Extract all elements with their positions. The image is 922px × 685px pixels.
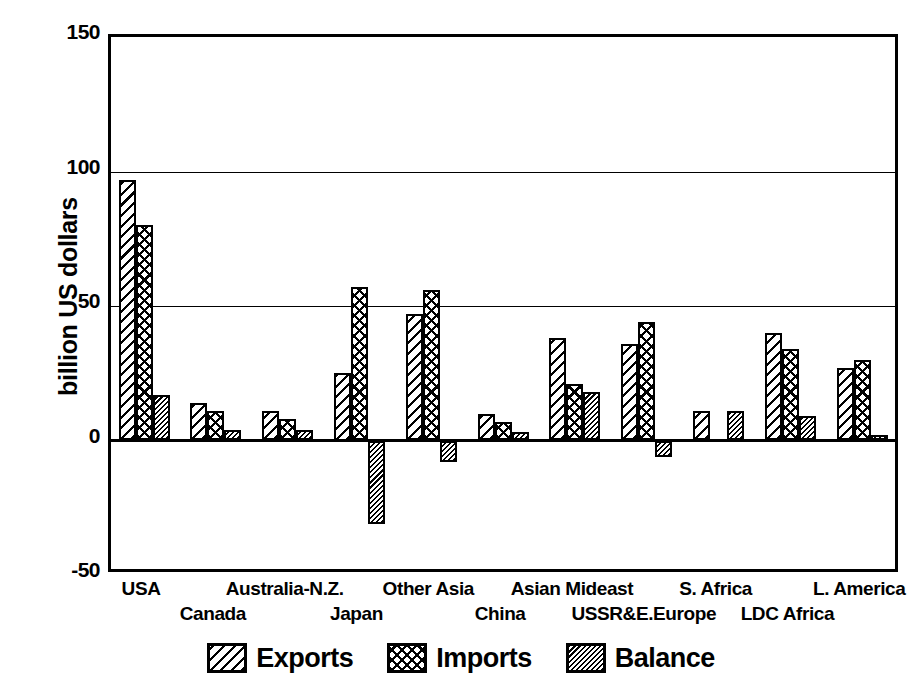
x-axis-category-labels: USACanadaAustralia-N.Z.JapanOther AsiaCh… xyxy=(108,578,898,630)
bar-exports-canada xyxy=(190,403,207,441)
x-axis-label-australia-n-z-: Australia-N.Z. xyxy=(226,578,344,600)
legend-label-balance: Balance xyxy=(615,643,715,674)
x-axis-label-other-asia: Other Asia xyxy=(383,578,474,600)
x-axis-label-usa: USA xyxy=(122,578,161,600)
bar-imports-ldc-africa xyxy=(782,349,799,440)
x-axis-label-japan: Japan xyxy=(330,603,383,625)
bar-balance-china xyxy=(512,432,529,440)
y-axis-tick-50: 50 xyxy=(30,289,100,313)
legend-swatch-imports-icon xyxy=(387,643,427,673)
x-axis-label-l-america: L. America xyxy=(813,578,905,600)
bar-imports-ussr-e-europe xyxy=(638,322,655,440)
x-axis-label-asian-mideast: Asian Mideast xyxy=(511,578,634,600)
bar-exports-l-america xyxy=(837,368,854,441)
bars-layer xyxy=(111,37,895,569)
bar-imports-china xyxy=(495,422,512,441)
legend-item-balance[interactable]: Balance xyxy=(566,643,715,674)
bar-balance-ussr-e-europe xyxy=(655,441,672,457)
bar-exports-ussr-e-europe xyxy=(621,344,638,441)
bar-balance-s-africa xyxy=(727,411,744,441)
bar-chart: billion US dollars 150100500-50 USACanad… xyxy=(0,0,922,685)
bar-imports-japan xyxy=(351,287,368,440)
x-axis-label-canada: Canada xyxy=(180,603,246,625)
bar-exports-japan xyxy=(334,373,351,440)
bar-balance-usa xyxy=(153,395,170,441)
bar-balance-canada xyxy=(224,430,241,441)
legend-label-imports: Imports xyxy=(436,643,532,674)
bar-balance-japan xyxy=(368,441,385,524)
bar-exports-australia-n-z- xyxy=(262,411,279,441)
bar-exports-s-africa xyxy=(693,411,710,441)
bar-balance-asian-mideast xyxy=(583,392,600,440)
bar-exports-ldc-africa xyxy=(765,333,782,441)
bar-imports-canada xyxy=(207,411,224,441)
bar-imports-other-asia xyxy=(423,290,440,441)
legend-label-exports: Exports xyxy=(256,643,353,674)
bar-balance-other-asia xyxy=(440,441,457,463)
bar-exports-china xyxy=(478,414,495,441)
legend-swatch-balance-icon xyxy=(566,643,606,673)
y-axis-tick-150: 150 xyxy=(30,20,100,44)
bar-imports-usa xyxy=(136,225,153,440)
y-axis-tick-neg50: -50 xyxy=(30,558,100,582)
y-axis-tick-100: 100 xyxy=(30,155,100,179)
bar-imports-australia-n-z- xyxy=(279,419,296,441)
plot-area xyxy=(108,34,898,572)
x-axis-label-ldc-africa: LDC Africa xyxy=(741,603,834,625)
bar-imports-asian-mideast xyxy=(566,384,583,440)
y-axis-tick-labels: 150100500-50 xyxy=(28,0,100,685)
bar-exports-asian-mideast xyxy=(549,338,566,440)
bar-exports-other-asia xyxy=(406,314,423,440)
bar-balance-australia-n-z- xyxy=(296,430,313,441)
chart-legend: ExportsImportsBalance xyxy=(0,634,922,682)
x-axis-label-china: China xyxy=(475,603,526,625)
legend-item-exports[interactable]: Exports xyxy=(207,643,353,674)
legend-item-imports[interactable]: Imports xyxy=(387,643,532,674)
bar-exports-usa xyxy=(119,180,136,441)
bar-imports-l-america xyxy=(854,360,871,441)
bar-balance-ldc-africa xyxy=(799,416,816,440)
x-axis-label-ussr-e-europe: USSR&E.Europe xyxy=(571,603,716,625)
x-axis-label-s-africa: S. Africa xyxy=(679,578,752,600)
legend-swatch-exports-icon xyxy=(207,643,247,673)
y-axis-tick-0: 0 xyxy=(30,424,100,448)
bar-balance-l-america xyxy=(871,435,888,440)
